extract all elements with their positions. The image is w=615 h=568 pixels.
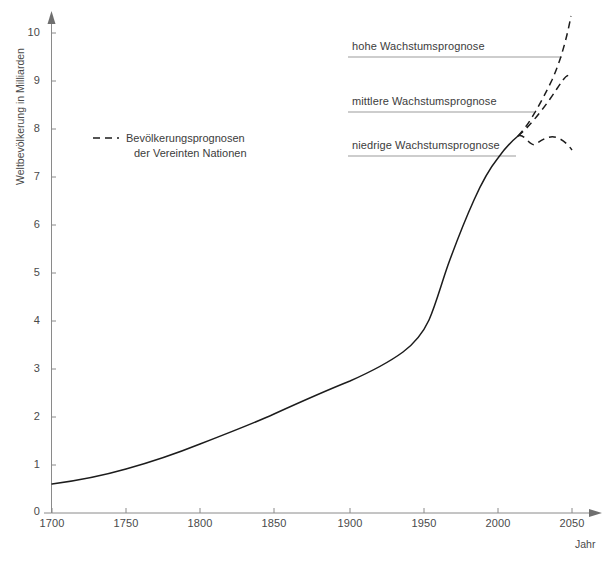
chart-plot-area: [0, 0, 615, 568]
series-historic-line: [52, 136, 518, 484]
x-tick-label-1700: 1700: [32, 517, 72, 529]
y-tick-label-2: 2: [20, 410, 40, 422]
y-tick-label-6: 6: [20, 218, 40, 230]
x-tick-label-1750: 1750: [106, 517, 146, 529]
annotation-low-growth: niedrige Wachstumsprognose: [352, 139, 500, 151]
population-growth-chart: 10 9 8 7 6 5 4 3 2 1 0 1700 1750 1800 18…: [0, 0, 615, 568]
y-tick-label-4: 4: [20, 314, 40, 326]
y-axis: [44, 11, 56, 513]
annotation-medium-growth: mittlere Wachstumsprognose: [352, 95, 497, 107]
series-low-forecast: [518, 135, 572, 150]
x-tick-label-1900: 1900: [330, 517, 370, 529]
y-axis-title: Weltbevölkerung in Milliarden: [14, 48, 26, 185]
series-high-forecast: [518, 16, 571, 136]
y-tick-label-10: 10: [20, 26, 40, 38]
x-tick-label-2000: 2000: [478, 517, 518, 529]
y-tick-label-3: 3: [20, 362, 40, 374]
y-tick-label-5: 5: [20, 266, 40, 278]
x-axis: [52, 508, 603, 517]
y-tick-label-1: 1: [20, 458, 40, 470]
y-tick-label-0: 0: [20, 505, 40, 517]
legend-label-line-1: Bevölkerungsprognosen: [126, 131, 245, 146]
x-tick-label-2050: 2050: [552, 517, 592, 529]
x-tick-label-1850: 1850: [254, 517, 294, 529]
x-tick-label-1950: 1950: [404, 517, 444, 529]
legend-label-line-2: der Vereinten Nationen: [134, 146, 247, 161]
x-axis-title: Jahr: [575, 538, 595, 550]
x-tick-label-1800: 1800: [180, 517, 220, 529]
annotation-high-growth: hohe Wachstumsprognose: [352, 40, 485, 52]
